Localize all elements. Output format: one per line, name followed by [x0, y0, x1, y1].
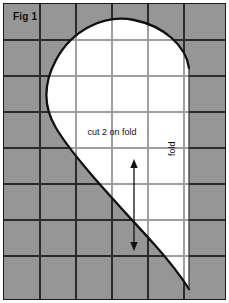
- pattern-diagram-svg: [4, 4, 225, 299]
- cut-instruction-label: cut 2 on fold: [57, 127, 167, 137]
- figure-caption: Fig 1: [13, 11, 37, 23]
- figure-frame: Fig 1 cut 2 on fold fold: [3, 3, 226, 300]
- fold-label: fold: [167, 141, 177, 156]
- pattern-grid-plate: [4, 4, 227, 301]
